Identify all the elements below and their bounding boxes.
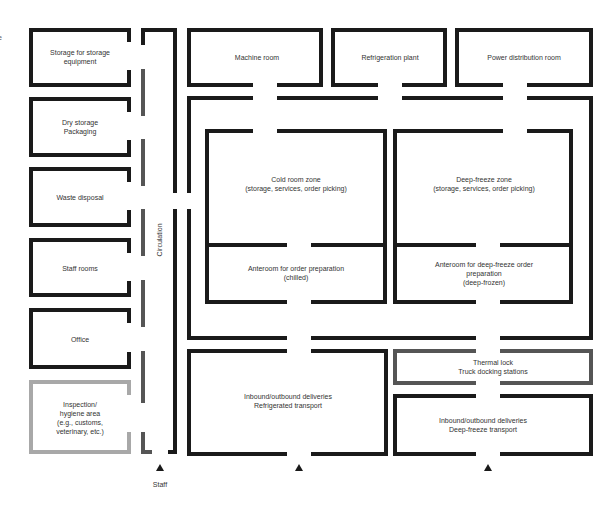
label-entrance-staff: Staff xyxy=(153,480,167,489)
corridor-inner-wall-bottom xyxy=(143,432,152,452)
label-cold-room-zone: Cold room zone (storage, services, order… xyxy=(245,175,347,193)
label-deepfreeze-delivery: Inbound/outbound deliveries Deep-freeze … xyxy=(439,416,527,434)
entrance-arrow-deep-freeze-icon xyxy=(484,464,492,471)
label-storage-equipment: Storage for storage equipment xyxy=(50,48,110,66)
label-waste-disposal: Waste disposal xyxy=(56,193,103,202)
entrance-arrow-staff-icon xyxy=(156,464,164,471)
label-deep-freeze-zone: Deep-freeze zone (storage, services, ord… xyxy=(433,175,535,193)
label-staff-rooms: Staff rooms xyxy=(62,264,98,273)
label-refrigerated-delivery: Inbound/outbound deliveries Refrigerated… xyxy=(244,392,332,410)
entrance-arrow-refrigerated-icon xyxy=(295,464,303,471)
label-deep-anteroom: Anteroom for deep-freeze order preparati… xyxy=(419,260,549,287)
label-office: Office xyxy=(71,335,89,344)
label-power-distribution: Power distribution room xyxy=(487,53,561,62)
label-inspection: Inspection/ hygiene area (e.g., customs,… xyxy=(56,400,104,436)
corridor-wall-top xyxy=(143,30,175,193)
label-circulation: Circulation xyxy=(156,223,163,256)
label-refrigeration-plant: Refrigeration plant xyxy=(361,53,418,62)
label-thermal-lock: Thermal lock Truck docking stations xyxy=(458,358,527,376)
building-wall-top-left xyxy=(189,98,253,193)
label-cold-anteroom: Anteroom for order preparation (chilled) xyxy=(248,264,344,282)
label-dry-storage: Dry storage Packaging xyxy=(62,118,98,136)
label-machine-room: Machine room xyxy=(235,53,279,62)
corridor-wall-right xyxy=(168,209,175,452)
edge-text-fragment: e xyxy=(0,34,2,41)
